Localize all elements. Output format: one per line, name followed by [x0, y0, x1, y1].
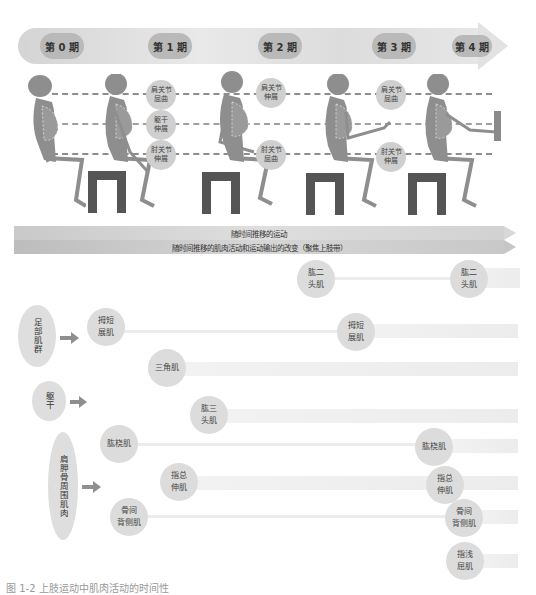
- muscle-fds: 指浅 屈肌: [446, 542, 484, 580]
- muscle-dorsal-interossei-phase-4: 骨间 背侧肌: [445, 499, 483, 537]
- stool-phase-1: [88, 171, 126, 213]
- stool-phase-2: [202, 172, 240, 214]
- phase-4-pill: 第 4 期: [452, 35, 492, 57]
- phase-3-pill: 第 3 期: [372, 33, 416, 59]
- joint-label-text: 肩关节 伸展: [261, 84, 282, 102]
- muscle-edc-phase-1: 指总 伸肌: [160, 463, 198, 501]
- muscle-activity-band: 随时间推移的肌肉活动和运动输出的改变（聚焦上肢带）: [14, 240, 504, 254]
- muscle-label: 肱三 头肌: [201, 403, 217, 427]
- muscle-label: 骨间 背侧肌: [452, 506, 476, 530]
- arrow-right-icon: [82, 485, 94, 489]
- dorsal-interossei-thin-bar: [142, 515, 462, 518]
- muscle-label: 三角肌: [155, 362, 179, 374]
- muscle-triceps: 肱三 头肌: [190, 396, 228, 434]
- muscle-label: 拇短 展肌: [98, 315, 114, 339]
- muscle-edc-phase-4: 指总 伸肌: [426, 466, 464, 504]
- joint-label-text: 肩关节 屈曲: [151, 86, 172, 104]
- stool-phase-3: [306, 173, 344, 215]
- muscle-biceps-phase-4: 肱二 头肌: [450, 260, 488, 298]
- phase-2-pill: 第 2 期: [258, 33, 302, 59]
- phase-1-pill: 第 1 期: [148, 33, 192, 59]
- apl-thick-bar: [360, 324, 518, 338]
- apl-thin-bar: [120, 330, 350, 333]
- arrow-right-icon: [70, 400, 80, 404]
- muscle-group-foot: 足部肌群: [18, 305, 56, 367]
- muscle-band-arrowhead: [504, 240, 516, 254]
- muscle-label: 肱桡肌: [107, 438, 131, 450]
- joint-label-p2-elbow-flexion: 肘关节 屈曲: [256, 140, 286, 170]
- joint-label-text: 肩关节 屈曲: [381, 86, 402, 104]
- stool-phase-4: [408, 173, 446, 215]
- muscle-apl-phase-1: 拇短 展肌: [87, 308, 125, 346]
- muscle-label: 骨间 背侧肌: [117, 505, 141, 529]
- joint-label-p2-shoulder-extension: 肩关节 伸展: [256, 78, 286, 108]
- brachioradialis-thin-bar: [132, 443, 432, 446]
- muscle-label: 肱桡肌: [422, 441, 446, 453]
- muscle-brachioradialis-phase-1: 肱桡肌: [100, 425, 138, 463]
- brachioradialis-thick-bar: [445, 439, 518, 453]
- joint-label-p1-elbow-extension: 肘关节 伸展: [146, 140, 176, 170]
- joint-label-p3-elbow-extension: 肘关节 伸展: [376, 142, 406, 172]
- muscle-apl-phase-3: 拇短 展肌: [337, 313, 375, 351]
- triceps-bar: [222, 409, 518, 423]
- muscle-dorsal-interossei-phase-1: 骨间 背侧肌: [110, 498, 148, 536]
- biceps-thin-bar: [320, 277, 460, 280]
- muscle-label: 指总 伸肌: [437, 473, 453, 497]
- muscle-label: 肱二 头肌: [308, 267, 324, 291]
- movement-over-time-band: 随时间推移的运动: [14, 226, 504, 240]
- deltoid-bar: [180, 362, 518, 376]
- edc-bar: [192, 476, 518, 490]
- figure-caption: 图 1-2 上肢运动中肌肉活动的时间性: [6, 580, 169, 595]
- arrow-right-icon: [60, 336, 72, 340]
- joint-label-text: 肘关节 伸展: [381, 148, 402, 166]
- muscle-biceps-phase-2: 肱二 头肌: [297, 260, 335, 298]
- muscle-label: 指总 伸肌: [171, 470, 187, 494]
- joint-label-text: 肘关节 屈曲: [261, 146, 282, 164]
- joint-label-p1-trunk-extension: 躯干 伸展: [146, 110, 176, 140]
- muscle-brachioradialis-phase-4: 肱桡肌: [415, 428, 453, 466]
- joint-label-text: 肘关节 伸展: [151, 146, 172, 164]
- muscle-label: 肱二 头肌: [461, 267, 477, 291]
- muscle-label: 拇短 展肌: [348, 320, 364, 344]
- movement-band-arrowhead: [504, 226, 516, 240]
- cylinder-object: [494, 111, 501, 141]
- muscle-group-scapula: 肩胛骨周围肌肉: [48, 432, 78, 540]
- muscle-group-trunk: 躯干: [32, 381, 66, 421]
- skeleton-phase-0: [26, 74, 86, 214]
- muscle-deltoid: 三角肌: [148, 349, 186, 387]
- joint-label-p3-shoulder-flexion: 肩关节 屈曲: [376, 80, 406, 110]
- muscle-label: 指浅 屈肌: [457, 549, 473, 573]
- joint-label-p1-shoulder-flexion: 肩关节 屈曲: [146, 80, 176, 110]
- phase-0-pill: 第 0 期: [40, 33, 84, 59]
- joint-label-text: 躯干 伸展: [154, 116, 168, 134]
